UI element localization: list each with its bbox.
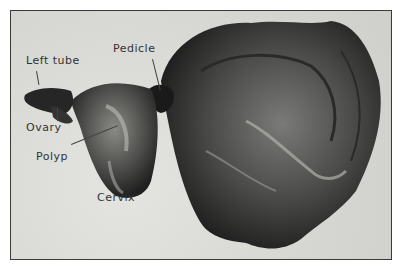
label-cervix: Cervix: [97, 191, 135, 204]
label-polyp: Polyp: [36, 150, 68, 163]
label-pedicle: Pedicle: [113, 42, 155, 55]
label-left-tube: Left tube: [26, 54, 80, 67]
label-ovary: Ovary: [26, 121, 61, 134]
specimen-image: [11, 11, 391, 259]
leader-ovary: [57, 107, 58, 121]
specimen-photograph: Left tube Pedicle Ovary Polyp Cervix: [10, 10, 392, 260]
